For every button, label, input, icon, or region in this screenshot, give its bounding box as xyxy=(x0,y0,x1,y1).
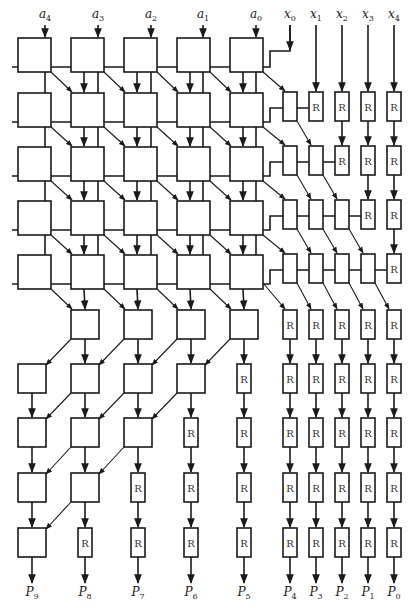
diagonal-arrow xyxy=(205,339,230,365)
accumulator-cell xyxy=(124,310,152,339)
multiplier-cell xyxy=(71,93,104,127)
register-label: R xyxy=(390,102,398,113)
register-label: R xyxy=(312,428,320,439)
register-label: R xyxy=(81,538,89,549)
diagonal-arrow xyxy=(349,229,363,253)
multiplier-cell xyxy=(124,255,157,289)
diagonal-arrow xyxy=(51,235,72,254)
register-label: R xyxy=(187,483,195,494)
vertical-arrow xyxy=(84,289,85,309)
diagonal-arrow xyxy=(210,181,231,200)
multiplier-cell xyxy=(124,201,157,235)
multiplier-cell xyxy=(18,38,51,72)
x-bus-row-1 xyxy=(12,108,309,122)
register-label: R xyxy=(338,374,346,385)
register-label: R xyxy=(312,102,320,113)
diagonal-arrow xyxy=(99,339,124,365)
diagonal-arrow xyxy=(157,181,178,200)
signal-label-P1: P1 xyxy=(360,585,374,601)
diagonal-arrow xyxy=(210,289,231,309)
register-label: R xyxy=(364,102,372,113)
multiplier-cell xyxy=(18,255,51,289)
adder-cell xyxy=(361,254,375,283)
register-label: R xyxy=(338,483,346,494)
diagonal-arrow xyxy=(51,289,72,309)
vertical-arrow xyxy=(190,289,191,309)
register-label: R xyxy=(286,320,294,331)
signal-label-x0: x0 xyxy=(284,7,296,23)
multiplier-cell xyxy=(124,147,157,181)
diagonal-arrow xyxy=(323,175,337,199)
diagonal-arrow xyxy=(46,393,71,419)
diagonal-arrow xyxy=(157,235,178,254)
diagonal-arrow xyxy=(51,72,72,92)
register-label: R xyxy=(390,483,398,494)
register-label: R xyxy=(338,156,346,167)
adder-cell xyxy=(335,254,349,283)
diagonal-arrow xyxy=(51,181,72,200)
signal-label-x4: x4 xyxy=(388,7,400,23)
diagonal-arrow xyxy=(152,339,177,365)
multiplier-cell xyxy=(177,147,210,181)
diagonal-arrow xyxy=(297,175,311,199)
diagonal-arrow xyxy=(46,447,71,474)
register-label: R xyxy=(286,374,294,385)
signal-label-P4: P4 xyxy=(282,585,296,601)
multiplier-cell xyxy=(230,147,263,181)
multiplier-cell xyxy=(124,38,157,72)
accumulator-cell xyxy=(71,473,99,502)
register-label: R xyxy=(364,210,372,221)
diagonal-arrow xyxy=(51,127,72,146)
register-label: R xyxy=(338,102,346,113)
diagonal-arrow xyxy=(157,72,178,92)
register-label: R xyxy=(364,538,372,549)
diagonal-arrow xyxy=(46,339,71,365)
register-label: R xyxy=(134,538,142,549)
register-label: R xyxy=(364,156,372,167)
diagonal-arrow xyxy=(263,181,285,199)
accumulator-cell xyxy=(124,364,152,393)
accumulator-cell xyxy=(18,473,46,502)
multiplier-cell xyxy=(230,93,263,127)
register-label: R xyxy=(312,374,320,385)
diagonal-arrow xyxy=(297,121,311,145)
signal-label-x1: x1 xyxy=(310,7,322,23)
signal-label-a4: a4 xyxy=(39,7,51,23)
register-label: R xyxy=(390,374,398,385)
signal-label-P5: P5 xyxy=(236,585,250,601)
multiplier-cell xyxy=(230,255,263,289)
register-label: R xyxy=(187,538,195,549)
signal-label-P8: P8 xyxy=(77,585,91,601)
diagonal-arrow xyxy=(297,229,311,253)
register-label: R xyxy=(390,320,398,331)
register-label: R xyxy=(312,483,320,494)
vertical-arrow xyxy=(243,289,244,309)
register-label: R xyxy=(187,428,195,439)
adder-cell xyxy=(335,200,349,229)
register-label: R xyxy=(240,374,248,385)
diagonal-arrow xyxy=(46,502,71,529)
multiplier-cell xyxy=(230,201,263,235)
register-label: R xyxy=(364,483,372,494)
register-label: R xyxy=(240,483,248,494)
diagonal-arrow xyxy=(104,127,125,146)
accumulator-cell xyxy=(177,310,205,339)
register-label: R xyxy=(286,428,294,439)
diagonal-arrow xyxy=(152,393,177,419)
diagonal-arrow xyxy=(104,289,125,309)
diagonal-arrow xyxy=(104,72,125,92)
signal-label-P2: P2 xyxy=(334,585,348,601)
multiplier-cell xyxy=(71,255,104,289)
register-label: R xyxy=(338,428,346,439)
accumulator-cell xyxy=(177,364,205,393)
register-label: R xyxy=(338,320,346,331)
register-label: R xyxy=(364,428,372,439)
signal-label-x2: x2 xyxy=(336,7,348,23)
diagonal-arrow xyxy=(157,127,178,146)
vertical-arrow xyxy=(137,289,138,309)
register-label: R xyxy=(134,483,142,494)
multiplier-cell xyxy=(177,93,210,127)
signal-label-x3: x3 xyxy=(362,7,374,23)
adder-cell xyxy=(283,200,297,229)
adder-cell xyxy=(283,146,297,175)
